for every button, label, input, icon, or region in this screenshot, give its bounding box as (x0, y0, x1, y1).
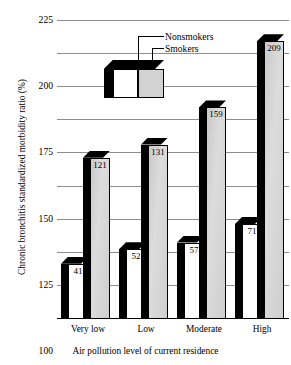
bar-smokers-very-low: 121 (90, 158, 110, 318)
bar-smokers-low: 131 (148, 145, 168, 319)
legend-label-nonsmokers: Nonsmokers (165, 31, 214, 42)
bar-top-face (199, 100, 226, 107)
y-tick-label-200: 200 (39, 80, 53, 91)
bar-smokers-high: 209 (264, 41, 284, 318)
legend-label-smokers: Smokers (165, 43, 199, 54)
gridline-225: 225 (57, 20, 289, 21)
bar-front-face (148, 145, 168, 319)
x-category-label-moderate: Moderate (186, 324, 222, 334)
x-category-label-very-low: Very low (71, 324, 105, 334)
bar-value-label: 131 (148, 148, 168, 157)
bar-top-face (141, 138, 168, 145)
bar-value-label: 209 (264, 44, 284, 53)
bar-chart: Chronic bronchitis standardized morbidit… (0, 0, 291, 365)
bar-value-label: 159 (206, 110, 226, 119)
y-tick-label-225: 225 (39, 14, 53, 25)
bar-front-face (206, 107, 226, 318)
bar-front-face (264, 41, 284, 318)
x-category-label-high: High (253, 324, 272, 334)
y-tick-label-175: 175 (39, 146, 53, 157)
bar-front-face (90, 158, 110, 318)
x-axis-title: Air pollution level of current residence (0, 346, 291, 356)
bar-smokers-moderate: 159 (206, 107, 226, 318)
bar-top-face (257, 34, 284, 41)
y-tick-label-150: 150 (39, 212, 53, 223)
x-category-label-low: Low (137, 324, 154, 334)
y-tick-label-125: 125 (39, 278, 53, 289)
gridline-150: 150 (57, 119, 289, 120)
y-axis-title: Chronic bronchitis standardized morbidit… (17, 47, 27, 307)
axis-baseline: 0 (57, 318, 289, 319)
gridline-175: 175 (57, 86, 289, 87)
bar-value-label: 121 (90, 161, 110, 170)
plot-area: 025507510012515017520022541121Very low52… (57, 20, 289, 318)
